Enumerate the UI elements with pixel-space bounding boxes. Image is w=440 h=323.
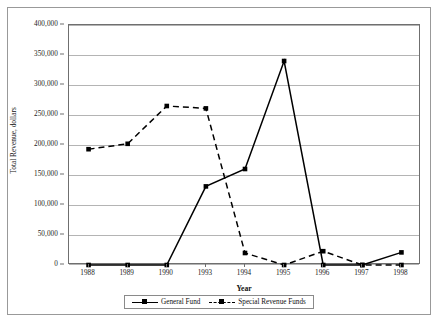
y-axis-tick: [60, 24, 64, 25]
y-axis-tick: [60, 174, 64, 175]
y-axis-tick-label: 200,000: [34, 140, 58, 148]
legend-label-general-fund: General Fund: [161, 298, 200, 306]
x-axis-tick: [88, 264, 89, 267]
chart-legend: General Fund Special Revenue Funds: [124, 295, 314, 309]
series-line-special-revenue-funds: [89, 106, 402, 265]
data-point-marker: [164, 104, 169, 109]
x-axis-tick: [127, 264, 128, 267]
plot-area: [68, 24, 420, 264]
y-axis-tick-label: 400,000: [34, 20, 58, 28]
x-axis-tick: [244, 264, 245, 267]
x-axis-tick-label: 1989: [119, 269, 133, 277]
x-axis-tick-label: 1995: [276, 269, 290, 277]
x-axis-tick-label: 1998: [393, 269, 407, 277]
x-axis-tick-label: 1996: [315, 269, 329, 277]
y-axis-tick: [60, 114, 64, 115]
y-axis-tick-label: 300,000: [34, 80, 58, 88]
x-axis-tick-label: 1993: [198, 269, 212, 277]
data-point-marker: [86, 147, 91, 152]
series-line-general-fund: [89, 61, 402, 265]
data-point-marker: [282, 59, 287, 64]
y-axis-tick: [60, 54, 64, 55]
y-axis-tick-label: 250,000: [34, 110, 58, 118]
y-axis-tick-label: 100,000: [34, 200, 58, 208]
series-layer: [69, 25, 421, 265]
data-point-marker: [204, 184, 209, 189]
y-axis-tick: [60, 264, 64, 265]
legend-label-special-revenue-funds: Special Revenue Funds: [238, 298, 305, 306]
x-axis-tick: [400, 264, 401, 267]
y-axis-tick-label: 0: [54, 260, 58, 268]
x-axis-tick: [166, 264, 167, 267]
data-point-marker: [125, 142, 130, 147]
legend-item-general-fund: General Fund: [132, 298, 200, 307]
y-axis-tick: [60, 204, 64, 205]
x-axis-labels: 198819891990199319941995199619971998: [68, 266, 420, 282]
x-axis-tick: [361, 264, 362, 267]
data-point-marker: [243, 167, 248, 172]
y-axis-tick: [60, 84, 64, 85]
y-axis-tick: [60, 144, 64, 145]
x-axis-tick-label: 1997: [354, 269, 368, 277]
x-axis-tick-label: 1988: [80, 269, 94, 277]
x-axis-tick: [322, 264, 323, 267]
data-point-marker: [243, 251, 248, 256]
y-axis-tick-label: 50,000: [38, 230, 58, 238]
y-axis-labels: 050,000100,000150,000200,000250,000300,0…: [0, 24, 64, 264]
x-axis-tick: [283, 264, 284, 267]
y-axis-tick-label: 150,000: [34, 170, 58, 178]
x-axis-tick-label: 1990: [159, 269, 173, 277]
x-axis-tick: [205, 264, 206, 267]
legend-line-solid-icon: [132, 298, 158, 307]
y-axis-tick: [60, 234, 64, 235]
legend-item-special-revenue-funds: Special Revenue Funds: [209, 298, 305, 307]
x-axis-title: Year: [68, 284, 420, 293]
legend-line-dashed-icon: [209, 298, 235, 307]
chart-figure: Total Revenue, dollars 050,000100,000150…: [0, 0, 440, 323]
data-point-marker: [321, 249, 326, 254]
x-axis-tick-label: 1994: [237, 269, 251, 277]
y-axis-tick-label: 350,000: [34, 50, 58, 58]
data-point-marker: [399, 250, 404, 255]
data-point-marker: [204, 106, 209, 111]
